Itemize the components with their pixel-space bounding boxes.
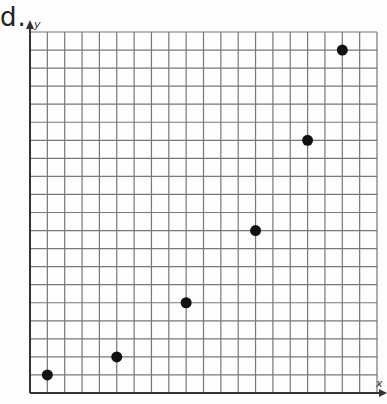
data-point (111, 351, 122, 362)
axes: xy (26, 18, 387, 397)
data-point (302, 135, 313, 146)
data-point (337, 45, 348, 56)
data-point (42, 369, 53, 380)
data-point (250, 225, 261, 236)
y-axis-arrow-icon (26, 20, 34, 29)
scatter-chart: xy (0, 0, 387, 404)
data-point (181, 297, 192, 308)
x-axis-label: x (375, 377, 383, 390)
x-axis-arrow-icon (379, 389, 387, 397)
grid-lines (30, 32, 377, 393)
y-axis-label: y (33, 18, 41, 31)
